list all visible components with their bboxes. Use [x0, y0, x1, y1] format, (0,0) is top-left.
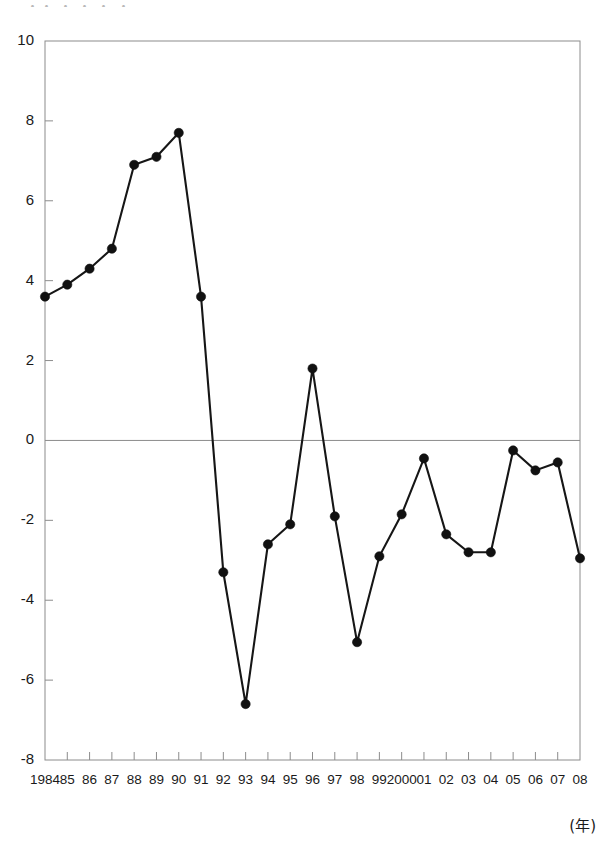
x-axis-labels: 1984858687888990919293949596979899200001…	[30, 772, 588, 787]
y-tick-label: -8	[21, 750, 34, 767]
data-point-marker	[464, 548, 473, 557]
data-point-marker	[40, 292, 49, 301]
x-tick-label: 01	[416, 772, 431, 787]
x-tick-label: 91	[194, 772, 209, 787]
data-point-marker	[352, 638, 361, 647]
series-polyline	[45, 133, 580, 704]
data-point-marker	[63, 280, 72, 289]
x-tick-label: 93	[238, 772, 253, 787]
x-tick-label: 08	[572, 772, 587, 787]
data-point-marker	[575, 554, 584, 563]
data-point-marker	[152, 152, 161, 161]
x-axis-ticks	[67, 752, 557, 760]
y-tick-label: -6	[21, 670, 34, 687]
data-point-marker	[286, 520, 295, 529]
y-axis-labels: 1086420-2-4-6-8	[17, 31, 34, 767]
data-point-marker	[486, 548, 495, 557]
x-tick-label: 86	[82, 772, 97, 787]
x-tick-label: 87	[104, 772, 119, 787]
data-point-marker	[330, 512, 339, 521]
data-point-marker	[509, 446, 518, 455]
data-point-markers	[40, 128, 584, 708]
x-tick-label: 99	[372, 772, 387, 787]
x-tick-label: 96	[305, 772, 320, 787]
chart-container: ・・ ・ ・ ・ ・ 1086420-2-4-6-8 1984858687888…	[0, 0, 608, 853]
data-point-marker	[442, 530, 451, 539]
y-tick-label: 8	[26, 111, 34, 128]
x-tick-label: 97	[327, 772, 342, 787]
y-tick-label: -2	[21, 510, 34, 527]
data-point-marker	[419, 454, 428, 463]
data-series-line	[45, 133, 580, 704]
x-tick-label: 94	[260, 772, 276, 787]
data-point-marker	[308, 364, 317, 373]
data-point-marker	[263, 540, 272, 549]
x-tick-label: 1984	[30, 772, 61, 787]
x-tick-label: 07	[550, 772, 565, 787]
x-tick-label: 85	[60, 772, 75, 787]
data-point-marker	[553, 458, 562, 467]
y-tick-label: 4	[26, 271, 34, 288]
x-tick-label: 05	[506, 772, 521, 787]
x-tick-label: 90	[171, 772, 186, 787]
data-point-marker	[174, 128, 183, 137]
x-tick-label: 03	[461, 772, 476, 787]
y-axis-ticks	[45, 121, 53, 680]
data-point-marker	[85, 264, 94, 273]
x-tick-label: 88	[127, 772, 142, 787]
data-point-marker	[196, 292, 205, 301]
data-point-marker	[219, 568, 228, 577]
data-point-marker	[107, 244, 116, 253]
y-tick-label: 10	[17, 31, 34, 48]
plot-frame	[45, 41, 580, 760]
y-tick-label: 6	[26, 191, 34, 208]
y-tick-label: -4	[21, 590, 34, 607]
y-tick-label: 0	[26, 430, 34, 447]
x-tick-label: 98	[350, 772, 365, 787]
data-point-marker	[397, 510, 406, 519]
data-point-marker	[531, 466, 540, 475]
line-chart-svg: 1086420-2-4-6-8 198485868788899091929394…	[0, 0, 608, 853]
y-tick-label: 2	[26, 351, 34, 368]
x-tick-label: 06	[528, 772, 543, 787]
x-tick-label: 92	[216, 772, 231, 787]
x-tick-label: 95	[283, 772, 298, 787]
x-axis-caption: (年)	[569, 817, 596, 835]
x-tick-label: 89	[149, 772, 164, 787]
x-tick-label: 04	[483, 772, 499, 787]
data-point-marker	[130, 160, 139, 169]
data-point-marker	[241, 699, 250, 708]
x-tick-label: 2000	[387, 772, 417, 787]
data-point-marker	[375, 552, 384, 561]
x-tick-label: 02	[439, 772, 454, 787]
